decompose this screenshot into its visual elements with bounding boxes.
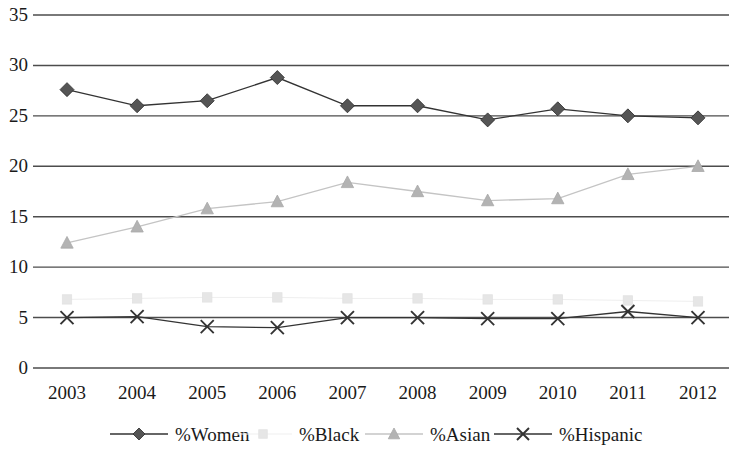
chart-legend: %Women%Black%Asian%Hispanic: [0, 419, 729, 457]
data-point: [130, 99, 144, 113]
y-axis-tick-label: 10: [0, 257, 28, 276]
data-point: [411, 99, 425, 113]
data-point: [343, 294, 352, 303]
x-axis-tick-label: 2010: [527, 383, 589, 402]
series-women: [60, 71, 705, 127]
legend-marker-square-icon: [232, 426, 294, 442]
x-axis-tick-label: 2006: [246, 383, 308, 402]
y-axis-tick-label: 20: [0, 156, 28, 175]
x-axis-tick-label: 2007: [316, 383, 378, 402]
data-point: [200, 94, 214, 108]
data-point: [623, 296, 632, 305]
x-axis-tick-label: 2005: [176, 383, 238, 402]
y-axis-tick-label: 0: [0, 358, 28, 377]
y-axis-tick-label: 25: [0, 106, 28, 125]
data-point: [621, 109, 635, 123]
data-point: [270, 71, 284, 85]
data-point: [203, 293, 212, 302]
x-axis-tick-label: 2011: [597, 383, 659, 402]
data-point: [273, 293, 282, 302]
data-point: [693, 297, 702, 306]
data-point: [340, 99, 354, 113]
series-asian: [61, 160, 704, 248]
y-axis-tick-label: 30: [0, 55, 28, 74]
legend-item-asian[interactable]: %Asian: [363, 419, 490, 449]
legend-item-black[interactable]: %Black: [232, 419, 359, 449]
x-axis-tick-label: 2008: [387, 383, 449, 402]
data-point: [483, 295, 492, 304]
series-hispanic: [61, 305, 705, 334]
data-point: [551, 102, 565, 116]
series-black: [62, 293, 702, 306]
y-axis-tick-label: 5: [0, 308, 28, 327]
data-point: [552, 192, 564, 204]
x-axis-tick-label: 2003: [36, 383, 98, 402]
data-point: [691, 111, 705, 125]
data-point: [341, 176, 353, 188]
x-axis-tick-label: 2009: [457, 383, 519, 402]
data-point: [132, 294, 141, 303]
data-point: [481, 113, 495, 127]
legend-marker-diamond-icon: [108, 426, 170, 442]
data-point: [62, 295, 71, 304]
legend-label: %Hispanic: [559, 425, 642, 444]
legend-item-hispanic[interactable]: %Hispanic: [492, 419, 642, 449]
data-point: [60, 83, 74, 97]
data-point: [413, 294, 422, 303]
data-point: [553, 295, 562, 304]
data-series-layer: [60, 71, 705, 335]
legend-label: %Asian: [430, 425, 490, 444]
x-axis-tick-label: 2012: [667, 383, 729, 402]
legend-item-women[interactable]: %Women: [108, 419, 249, 449]
legend-label: %Black: [299, 425, 359, 444]
chart-container: 05101520253035 2003200420052006200720082…: [0, 0, 729, 457]
legend-marker-triangle-icon: [363, 426, 425, 442]
legend-marker-cross-icon: [492, 426, 554, 442]
y-axis-tick-label: 35: [0, 5, 28, 24]
x-axis-tick-label: 2004: [106, 383, 168, 402]
y-axis-tick-label: 15: [0, 207, 28, 226]
